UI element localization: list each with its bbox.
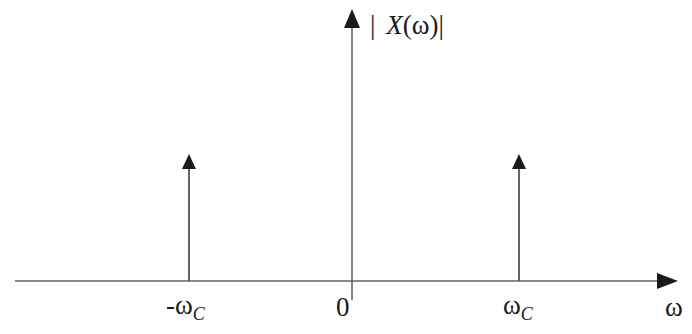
y-axis-arrowhead-icon <box>344 9 360 28</box>
spectrum-diagram: | X(ω)| 0 -ωC ωC ω <box>0 0 692 334</box>
origin-label: 0 <box>336 292 350 322</box>
positive-cutoff-label: ωC <box>503 290 534 324</box>
y-axis-label: | X(ω)| <box>370 10 444 40</box>
impulse-positive-arrowhead-icon <box>512 154 526 169</box>
negative-cutoff-label: -ωC <box>166 290 206 324</box>
x-axis-arrowhead-icon <box>657 273 678 289</box>
diagram-canvas: | X(ω)| 0 -ωC ωC ω <box>0 0 692 334</box>
x-axis-label: ω <box>665 292 683 322</box>
impulse-negative-arrowhead-icon <box>182 154 196 169</box>
